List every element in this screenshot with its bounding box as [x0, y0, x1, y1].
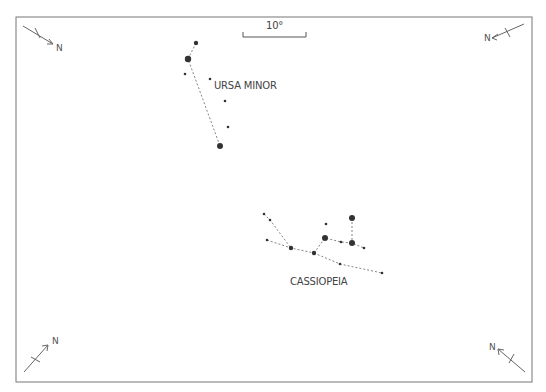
star-chart	[0, 0, 546, 392]
star	[289, 246, 293, 250]
star	[325, 223, 328, 226]
star	[266, 239, 269, 242]
star	[217, 143, 223, 149]
star	[349, 215, 355, 221]
chart-frame	[16, 17, 532, 382]
scale-bar	[243, 32, 306, 37]
star	[194, 41, 198, 45]
star	[184, 73, 187, 76]
star	[340, 241, 343, 244]
north-label-top-right: N	[484, 33, 491, 43]
constellation-label-cassiopeia: CASSIOPEIA	[290, 276, 347, 287]
star	[263, 213, 266, 216]
star	[349, 240, 355, 246]
north-label-top-left: N	[56, 43, 63, 53]
compass-arrow-bottom-left-icon	[24, 345, 48, 372]
compass-arrow-top-left-icon	[23, 26, 53, 44]
stars	[184, 41, 384, 275]
north-label-bottom-right: N	[489, 342, 496, 352]
compass-arrow-top-right-icon	[492, 24, 524, 40]
north-label-bottom-left: N	[52, 336, 59, 346]
star	[381, 272, 384, 275]
star	[312, 251, 316, 255]
star	[269, 219, 272, 222]
star	[363, 247, 366, 250]
star	[224, 100, 227, 103]
compass-arrow-bottom-right-icon	[498, 349, 525, 372]
constellation-label-ursa-minor: URSA MINOR	[214, 80, 277, 91]
star	[209, 78, 212, 81]
star	[185, 56, 191, 62]
star	[322, 235, 328, 241]
scale-bar-label: 10°	[266, 20, 283, 31]
star	[339, 263, 342, 266]
constellation-lines	[188, 43, 382, 273]
star	[227, 126, 230, 129]
